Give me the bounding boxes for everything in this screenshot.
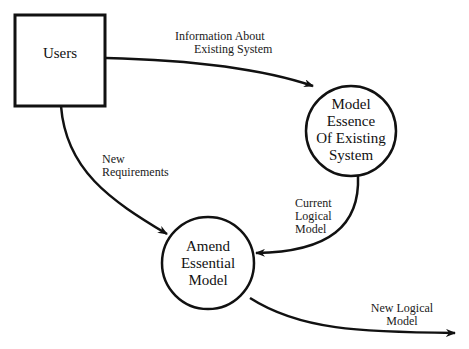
amend-model-line-2: Essential [162,255,254,272]
model-essence-line-2: Essence [306,113,396,130]
amend-model-label: Amend Essential Model [162,238,254,289]
amend-model-line-3: Model [162,272,254,289]
model-essence-line-4: System [306,147,396,164]
flow-label-current-logical-model: Current Logical Model [295,197,332,236]
model-essence-line-3: Of Existing [306,130,396,147]
flow-label-information: Information About Existing System [175,30,272,56]
flow-label-new-requirements-line-2: Requirements [102,166,169,179]
flow-arrow-information [106,58,313,86]
amend-model-line-1: Amend [162,238,254,255]
flow-label-current-logical-model-line-3: Model [295,223,332,236]
flow-label-new-logical-model: New Logical Model [362,302,442,328]
model-essence-label: Model Essence Of Existing System [306,96,396,164]
users-label-text: Users [43,45,77,61]
model-essence-line-1: Model [306,96,396,113]
flow-label-new-requirements: New Requirements [102,153,169,179]
users-label: Users [15,45,105,62]
flow-label-new-logical-model-line-2: Model [362,315,442,328]
flow-label-information-line-2: Existing System [175,43,272,56]
